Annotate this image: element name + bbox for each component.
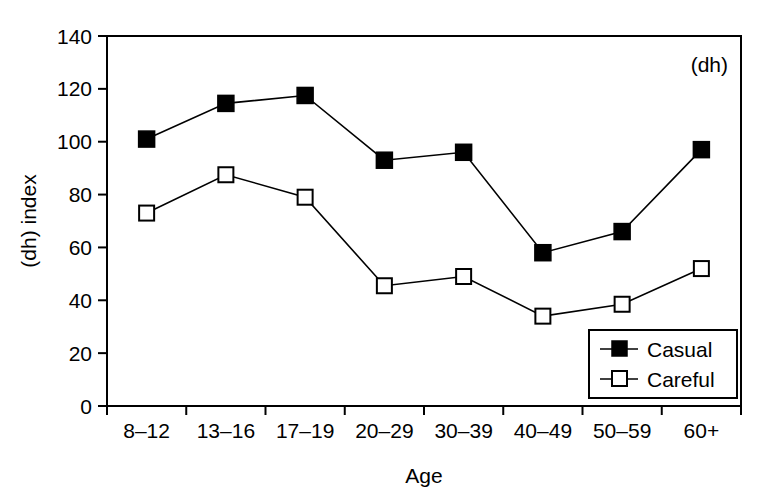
x-tick-label: 30–39 xyxy=(434,419,492,442)
legend-marker-careful xyxy=(612,371,627,386)
chart-annotation: (dh) xyxy=(691,53,728,76)
data-point-casual-4 xyxy=(456,144,472,160)
y-axis-ticks xyxy=(98,36,107,406)
x-tick-label: 20–29 xyxy=(355,419,413,442)
y-tick-label: 120 xyxy=(57,77,92,100)
data-point-careful-4 xyxy=(456,269,471,284)
x-axis-title: Age xyxy=(405,464,442,487)
y-tick-label: 80 xyxy=(69,183,92,206)
legend-label-casual: Casual xyxy=(647,338,712,361)
line-chart: 020406080100120140 8–1213–1617–1920–2930… xyxy=(0,0,768,500)
y-tick-label: 60 xyxy=(69,236,92,259)
data-point-careful-7 xyxy=(694,261,709,276)
data-point-careful-0 xyxy=(139,206,154,221)
x-tick-label: 8–12 xyxy=(123,419,170,442)
data-point-casual-3 xyxy=(376,152,392,168)
x-tick-label: 60+ xyxy=(684,419,720,442)
y-tick-label: 0 xyxy=(80,395,92,418)
series-careful xyxy=(139,167,709,323)
y-tick-label: 20 xyxy=(69,342,92,365)
x-axis-tick-labels: 8–1213–1617–1920–2930–3940–4950–5960+ xyxy=(123,419,719,442)
data-point-careful-6 xyxy=(615,297,630,312)
y-axis-tick-labels: 020406080100120140 xyxy=(57,25,92,418)
data-point-casual-0 xyxy=(139,131,155,147)
data-point-casual-6 xyxy=(614,224,630,240)
data-point-casual-7 xyxy=(693,142,709,158)
x-tick-label: 40–49 xyxy=(514,419,572,442)
data-point-careful-2 xyxy=(298,190,313,205)
y-tick-label: 40 xyxy=(69,289,92,312)
x-tick-label: 13–16 xyxy=(197,419,255,442)
data-point-casual-2 xyxy=(297,87,313,103)
chart-legend: Casual Careful xyxy=(589,330,737,398)
x-axis-ticks xyxy=(107,406,741,415)
y-axis-title: (dh) index xyxy=(17,174,40,268)
series-line-careful xyxy=(147,175,702,316)
data-point-careful-3 xyxy=(377,278,392,293)
legend-label-careful: Careful xyxy=(647,368,715,391)
x-tick-label: 50–59 xyxy=(593,419,651,442)
data-point-careful-1 xyxy=(218,167,233,182)
data-point-casual-5 xyxy=(535,245,551,261)
x-tick-label: 17–19 xyxy=(276,419,334,442)
y-tick-label: 100 xyxy=(57,130,92,153)
y-tick-label: 140 xyxy=(57,25,92,48)
data-point-careful-5 xyxy=(535,309,550,324)
data-point-casual-1 xyxy=(218,95,234,111)
chart-figure: 020406080100120140 8–1213–1617–1920–2930… xyxy=(0,0,768,500)
legend-marker-casual xyxy=(612,341,627,356)
